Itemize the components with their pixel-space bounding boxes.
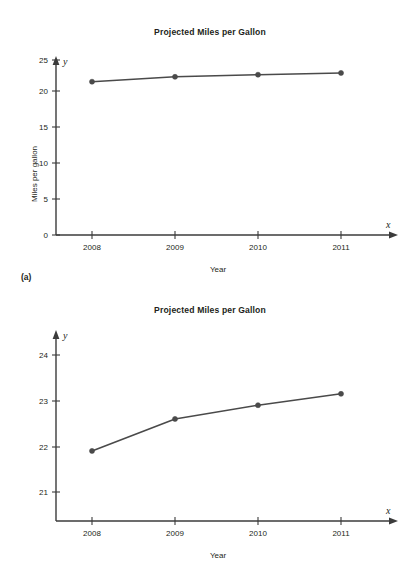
x-axis-letter: x bbox=[385, 505, 391, 516]
y-tick-label: 10 bbox=[39, 159, 48, 168]
x-tick-label: 2011 bbox=[332, 529, 350, 538]
figure-b: Projected Miles per Gallon yx21222324200… bbox=[0, 285, 420, 567]
y-tick-label: 15 bbox=[39, 123, 48, 132]
data-point-marker bbox=[256, 403, 261, 408]
data-point-marker bbox=[90, 79, 95, 84]
x-tick-label: 2009 bbox=[166, 529, 184, 538]
chart-a-plot: yx05101520252008200920102011 bbox=[0, 0, 420, 290]
x-tick-label: 2009 bbox=[166, 243, 184, 252]
x-axis-letter: x bbox=[385, 219, 391, 230]
y-tick-label: 0 bbox=[44, 231, 49, 240]
y-axis-letter: y bbox=[62, 56, 68, 67]
x-tick-label: 2008 bbox=[83, 243, 101, 252]
x-tick-label: 2011 bbox=[332, 243, 350, 252]
x-tick-label: 2010 bbox=[249, 243, 267, 252]
y-tick-label: 5 bbox=[44, 195, 49, 204]
x-tick-label: 2010 bbox=[249, 529, 267, 538]
y-tick-label: 20 bbox=[39, 87, 48, 96]
figure-a: Projected Miles per Gallon yx05101520252… bbox=[0, 0, 420, 290]
data-series-line bbox=[92, 394, 341, 451]
y-tick-label: 25 bbox=[39, 56, 48, 65]
x-tick-label: 2008 bbox=[83, 529, 101, 538]
chart-b-x-axis-label: Year bbox=[150, 551, 286, 560]
data-point-marker bbox=[173, 416, 178, 421]
data-series-line bbox=[92, 73, 341, 82]
y-tick-label: 22 bbox=[39, 443, 48, 452]
y-axis-letter: y bbox=[62, 330, 68, 341]
y-tick-label: 24 bbox=[39, 351, 48, 360]
chart-a-x-axis-label: Year bbox=[150, 265, 286, 274]
data-point-marker bbox=[339, 391, 344, 396]
chart-a-y-axis-label: Miles per gallon bbox=[30, 146, 39, 202]
data-point-marker bbox=[173, 74, 178, 79]
data-point-marker bbox=[90, 448, 95, 453]
panel-letter-a: (a) bbox=[21, 272, 31, 282]
y-tick-label: 23 bbox=[39, 397, 48, 406]
y-tick-label: 21 bbox=[39, 488, 48, 497]
data-point-marker bbox=[256, 72, 261, 77]
data-point-marker bbox=[339, 70, 344, 75]
chart-b-plot: yx212223242008200920102011 bbox=[0, 285, 420, 567]
